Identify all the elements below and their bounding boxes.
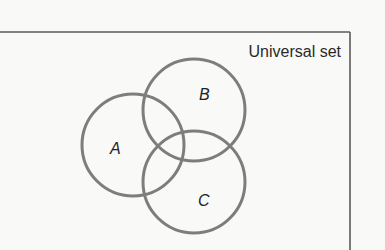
set-a-label: A — [109, 140, 121, 157]
set-b-label: B — [199, 86, 210, 103]
venn-diagram: Universal set A B C — [0, 0, 385, 250]
set-c-label: C — [198, 192, 210, 209]
universal-set-label: Universal set — [249, 43, 342, 60]
set-a-circle — [82, 94, 184, 196]
venn-diagram-canvas: Universal set A B C — [0, 0, 385, 250]
set-c-circle — [143, 131, 245, 233]
